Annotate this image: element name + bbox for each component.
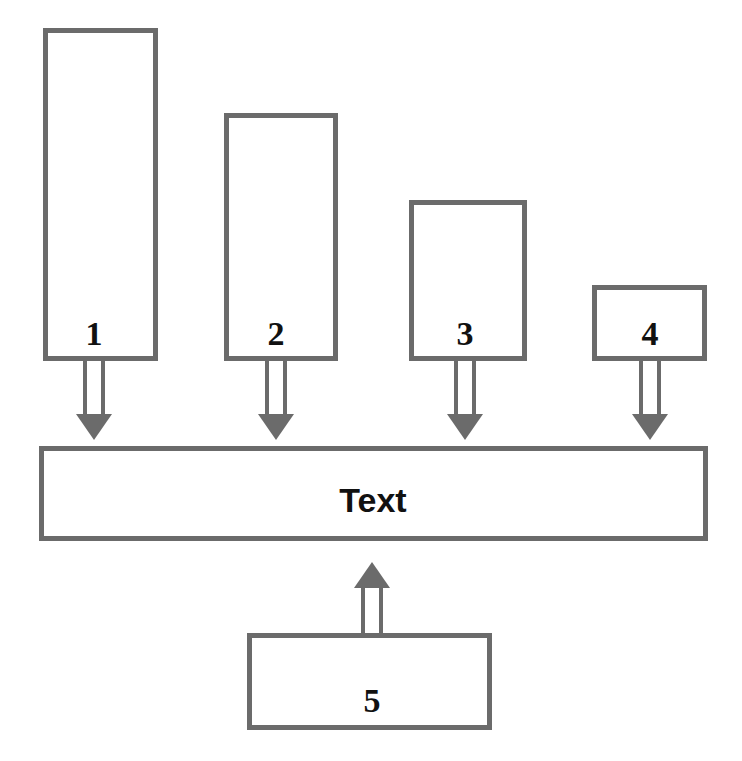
node-label-1: 1: [86, 315, 103, 352]
arrow-4-head: [632, 414, 668, 440]
node-label-3: 3: [457, 315, 474, 352]
diagram-svg: 12345 Text: [0, 0, 742, 761]
node-box-1[interactable]: 1: [46, 31, 156, 359]
arrow-4[interactable]: [632, 361, 668, 440]
node-label-2: 2: [268, 315, 285, 352]
central-bar[interactable]: Text: [42, 449, 706, 539]
node-label-5: 5: [364, 682, 381, 719]
arrow-1[interactable]: [76, 361, 112, 440]
node-box-2[interactable]: 2: [227, 116, 336, 359]
arrow-3-shaft-fill: [456, 361, 474, 414]
arrow-5-shaft-fill: [363, 588, 381, 633]
node-box-4[interactable]: 4: [595, 288, 705, 359]
arrow-2[interactable]: [258, 361, 294, 440]
arrow-2-shaft-fill: [267, 361, 285, 414]
node-box-3[interactable]: 3: [412, 203, 525, 359]
arrow-2-head: [258, 414, 294, 440]
node-box-5[interactable]: 5: [250, 636, 490, 728]
central-bar-label: Text: [339, 481, 406, 519]
arrow-1-head: [76, 414, 112, 440]
arrow-4-shaft-fill: [641, 361, 659, 414]
central-bar-layer: Text: [42, 449, 706, 539]
arrow-1-shaft-fill: [85, 361, 103, 414]
arrow-3[interactable]: [447, 361, 483, 440]
arrow-5[interactable]: [354, 562, 390, 633]
arrow-5-head: [354, 562, 390, 588]
diagram-canvas: 12345 Text: [0, 0, 742, 761]
arrow-3-head: [447, 414, 483, 440]
node-label-4: 4: [642, 315, 659, 352]
node-box-1-outline: [46, 31, 156, 359]
